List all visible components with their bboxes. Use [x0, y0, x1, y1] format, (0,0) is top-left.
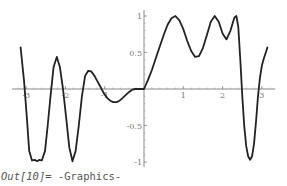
output-prompt: Out[10]=: [1, 170, 52, 182]
y-tick-label: -0.5: [127, 122, 142, 131]
line-chart: -3-2-112310.5-0.5-1: [0, 0, 287, 172]
x-tick-label: 1: [181, 91, 186, 100]
y-tick-label: 1: [137, 12, 142, 21]
y-tick-label: -1: [134, 158, 142, 167]
x-tick-label: 2: [220, 91, 225, 100]
output-value: -Graphics-: [58, 170, 121, 182]
y-tick-label: 0.5: [129, 49, 142, 58]
x-tick-label: 3: [259, 91, 264, 100]
output-line: Out[10]= -Graphics-: [1, 170, 121, 182]
